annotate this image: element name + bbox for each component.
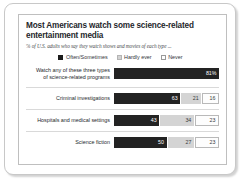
chart-row-label: Criminal investigations bbox=[26, 95, 114, 102]
chart-row-label-line2: of science-related programs bbox=[43, 74, 110, 80]
legend-swatch-icon bbox=[161, 55, 166, 60]
bar-segment-never[interactable]: 23 bbox=[195, 115, 219, 126]
chart-row[interactable]: Criminal investigations 63 21 16 bbox=[26, 88, 219, 109]
chart-row-bar: 63 21 16 bbox=[114, 93, 219, 104]
bar-segment-hardly-ever[interactable]: 27 bbox=[167, 137, 195, 148]
bar-segment-never[interactable]: 16 bbox=[202, 93, 219, 104]
chart-panel: Most Americans watch some science-relate… bbox=[18, 14, 227, 165]
chart-rows: Watch any of these three types of scienc… bbox=[26, 63, 219, 153]
bar-segment-often[interactable]: 43 bbox=[114, 115, 159, 126]
chart-row-label: Watch any of these three types of scienc… bbox=[26, 67, 114, 80]
legend-item-label: Hardly ever bbox=[124, 54, 152, 60]
bar-segment-never[interactable]: 23 bbox=[195, 137, 219, 148]
chart-row-label-line1: Watch any of these three types bbox=[36, 67, 110, 73]
legend-item-label: Often/Sometimes bbox=[66, 54, 108, 60]
chart-card: Most Americans watch some science-relate… bbox=[4, 3, 236, 175]
chart-row-bar: 43 34 23 bbox=[114, 115, 219, 126]
chart-subtitle: % of U.S. adults who say they watch show… bbox=[26, 43, 219, 50]
legend-item-label: Never bbox=[168, 54, 182, 60]
bar-segment-often[interactable]: 50 bbox=[114, 137, 167, 148]
chart-row[interactable]: Science fiction 50 27 23 bbox=[26, 132, 219, 153]
chart-row-bar: 81% bbox=[114, 68, 219, 79]
bar-segment-hardly-ever[interactable]: 34 bbox=[159, 115, 195, 126]
chart-row-label: Science fiction bbox=[26, 139, 114, 146]
legend-item-never[interactable]: Never bbox=[161, 54, 183, 60]
legend-swatch-icon bbox=[58, 55, 63, 60]
legend-item-hardly-ever[interactable]: Hardly ever bbox=[117, 54, 152, 60]
chart-legend: Often/Sometimes Hardly ever Never bbox=[26, 54, 219, 60]
chart-row[interactable]: Hospitals and medical settings 43 34 23 bbox=[26, 110, 219, 131]
legend-swatch-icon bbox=[117, 55, 122, 60]
page-title: Most Americans watch some science-relate… bbox=[26, 21, 219, 41]
bar-segment-hardly-ever[interactable]: 21 bbox=[180, 93, 202, 104]
chart-row-bar: 50 27 23 bbox=[114, 137, 219, 148]
bar-segment-often[interactable]: 63 bbox=[114, 93, 180, 104]
chart-row-label: Hospitals and medical settings bbox=[26, 117, 114, 124]
bar-segment-often[interactable]: 81% bbox=[114, 68, 219, 79]
chart-row[interactable]: Watch any of these three types of scienc… bbox=[26, 63, 219, 84]
legend-item-often-sometimes[interactable]: Often/Sometimes bbox=[58, 54, 107, 60]
